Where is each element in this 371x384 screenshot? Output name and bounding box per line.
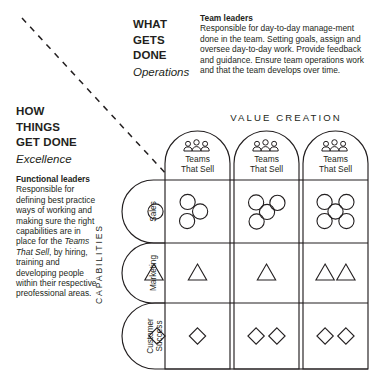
circle-marker [317,213,332,228]
column-header-label: TeamsThat Sell [319,154,352,174]
circle-marker [193,204,208,219]
circle-marker [180,213,195,228]
matrix-cells [180,194,356,344]
circle-marker [270,195,285,210]
row-label: CustomerSuccess [146,318,164,354]
people-group-icon [253,140,278,151]
triangle-marker [316,264,334,280]
matrix-cell [257,264,275,280]
circle-marker [249,195,264,210]
diamond-marker [189,328,205,344]
circle-marker [259,204,274,219]
matrix-cell [248,328,285,344]
diamond-marker [338,328,354,344]
diagram-canvas: WHAT GETS DONE Operations Team leaders R… [0,0,371,384]
matrix-column-headers: TeamsThat SellTeamsThat SellTeamsThat Se… [181,140,352,174]
matrix-row-keys: SalesMarketingCustomerSuccess [145,201,165,353]
circle-marker [180,194,195,209]
diamond-marker [269,328,285,344]
circle-marker [339,194,354,209]
matrix-cell [180,194,208,228]
column-header-label: TeamsThat Sell [250,154,283,174]
triangle-marker [257,264,275,280]
column-header-label: TeamsThat Sell [181,154,214,174]
circle-marker [328,204,343,219]
matrix-cell [249,195,286,229]
people-group-icon [322,140,347,151]
capability-matrix: SalesMarketingCustomerSuccess TeamsThat … [0,0,371,384]
row-label: Marketing [149,255,158,291]
matrix-cell [188,264,206,280]
matrix-cell [316,264,355,280]
matrix-cell [317,328,354,344]
circle-marker [339,213,354,228]
circle-marker [317,194,332,209]
triangle-marker [188,264,206,280]
triangle-marker [337,264,355,280]
matrix-cell [317,194,354,228]
circle-marker [249,214,264,229]
row-label: Sales [149,201,158,221]
matrix-cell [189,328,205,344]
diamond-marker [317,328,333,344]
people-group-icon [184,140,209,151]
diamond-marker [248,328,264,344]
